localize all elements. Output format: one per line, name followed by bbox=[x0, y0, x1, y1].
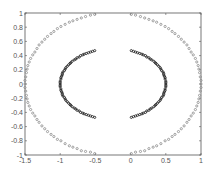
y-tick-label: 0.4 bbox=[13, 52, 23, 59]
scatter-chart: -1.5-1-0.500.51 -1-0.8-0.6-0.4-0.200.20.… bbox=[0, 0, 213, 171]
x-tick-label: 0.5 bbox=[161, 157, 171, 164]
y-tick-label: 0.6 bbox=[13, 38, 23, 45]
x-tick-label: 0 bbox=[129, 157, 133, 164]
y-tick-label: 0.2 bbox=[13, 66, 23, 73]
y-tick-label: -0.6 bbox=[11, 123, 23, 130]
y-tick-label: -0.4 bbox=[11, 109, 23, 116]
x-tick-label: -0.5 bbox=[89, 157, 101, 164]
x-tick-label: -1 bbox=[57, 157, 63, 164]
y-tick-label: 0.8 bbox=[13, 24, 23, 31]
y-tick-label: 0 bbox=[19, 81, 23, 88]
y-tick-label: -0.8 bbox=[11, 137, 23, 144]
y-tick-label: -1 bbox=[17, 152, 23, 159]
x-tick-label: 1 bbox=[199, 157, 203, 164]
y-tick-label: -0.2 bbox=[11, 95, 23, 102]
y-tick-label: 1 bbox=[19, 10, 23, 17]
